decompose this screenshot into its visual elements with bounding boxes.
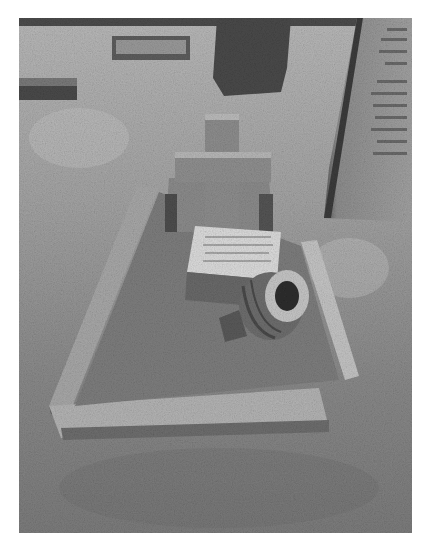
distant-grave-left xyxy=(19,86,77,100)
grave-scene xyxy=(19,18,412,533)
grave-photograph: Black and white photograph of an old gra… xyxy=(19,18,412,533)
tree-trunk xyxy=(213,18,291,96)
